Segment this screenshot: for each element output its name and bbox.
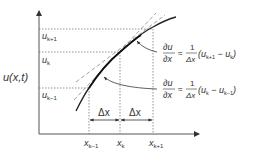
y-axis-label: u(x,t) xyxy=(3,71,28,83)
formula-backward-difference: ∂u ∂x ≈ 1 Δx (uk − uk−1) xyxy=(163,78,236,100)
function-curve xyxy=(76,17,176,111)
highlight-segment-backward xyxy=(89,52,120,88)
x-tick-labels: xk−1 xk xk+1 xyxy=(83,138,164,149)
formula2-rhs: (uk − uk−1) xyxy=(198,85,236,96)
formula1-lhs-num: ∂u xyxy=(163,42,172,52)
formula2-lhs-num: ∂u xyxy=(163,78,172,88)
secant-lines xyxy=(74,13,165,100)
axes xyxy=(39,11,199,134)
y-tick-uk: uk xyxy=(42,55,51,66)
formula-forward-difference: ∂u ∂x ≈ 1 Δx (uk+1 − uk) xyxy=(163,42,236,64)
formula2-frac-num: 1 xyxy=(190,79,195,88)
formula1-lhs-den: ∂x xyxy=(163,54,172,64)
formula1-approx: ≈ xyxy=(178,49,183,58)
formula1-rhs: (uk+1 − uk) xyxy=(198,49,236,60)
formula1-frac-num: 1 xyxy=(190,43,195,52)
x-tick-xk: xk xyxy=(116,138,126,149)
leader-arrow-backward xyxy=(104,77,157,89)
y-tick-ukm1: uk−1 xyxy=(42,90,58,101)
backward-secant xyxy=(76,15,165,82)
formula2-frac-den: Δx xyxy=(185,91,196,100)
finite-difference-diagram: Δx Δx u(x,t) uk+1 uk uk−1 xk−1 xk xk+1 ∂… xyxy=(0,0,254,153)
x-tick-xk1: xk+1 xyxy=(148,138,164,149)
y-tick-uk1: uk+1 xyxy=(42,31,58,42)
vertical-gridlines xyxy=(89,29,153,134)
y-tick-labels: uk+1 uk uk−1 xyxy=(42,31,58,101)
formula2-lhs-den: ∂x xyxy=(163,90,172,100)
formula1-frac-den: Δx xyxy=(185,55,196,64)
leader-arrow-forward xyxy=(137,41,157,52)
formula2-approx: ≈ xyxy=(178,85,183,94)
highlight-segment-forward xyxy=(120,35,141,52)
delta-x-label-left: Δx xyxy=(98,107,110,118)
x-tick-xkm1: xk−1 xyxy=(83,138,99,149)
delta-x-label-right: Δx xyxy=(129,107,141,118)
